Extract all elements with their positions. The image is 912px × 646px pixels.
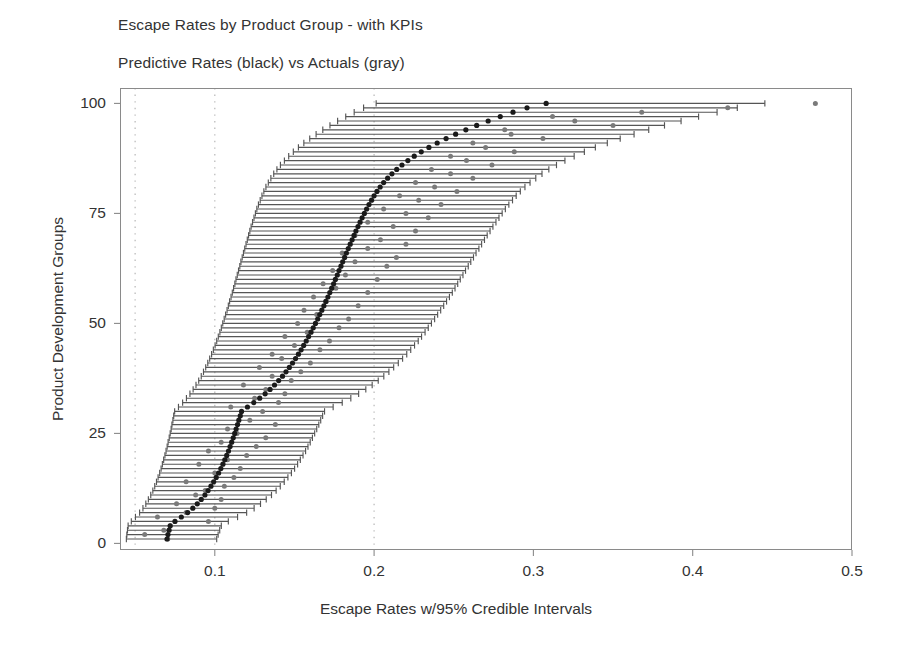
x-tick-label: 0.2: [363, 562, 385, 580]
y-tick-label: 50: [34, 314, 106, 332]
y-tick-label: 0: [34, 534, 106, 552]
chart-container: Escape Rates by Product Group - with KPI…: [0, 0, 912, 646]
x-tick-label: 0.5: [841, 562, 863, 580]
x-tick-label: 0.3: [523, 562, 545, 580]
y-tick-label: 25: [34, 424, 106, 442]
x-tick-label: 0.4: [682, 562, 704, 580]
plot-area: [0, 0, 912, 646]
y-tick-label: 100: [34, 94, 106, 112]
y-tick-label: 75: [34, 204, 106, 222]
credible-interval-bars: [126, 100, 764, 542]
x-tick-label: 0.1: [204, 562, 226, 580]
actual-points: [142, 101, 818, 542]
